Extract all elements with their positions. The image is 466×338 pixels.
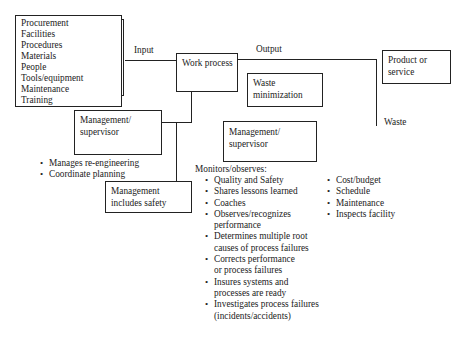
bullet-item: Coaches: [205, 198, 319, 209]
inputs-box: Procurement Facilities Procedures Materi…: [15, 15, 122, 107]
monitors-bullets: Quality and Safety Shares lessons learne…: [205, 175, 319, 322]
bullet-text: Quality and Safety: [214, 175, 319, 186]
waste-minimization-label: Waste minimization: [248, 74, 322, 101]
input-item: Procedures: [21, 40, 121, 51]
bullet-item: Coordinate planning: [40, 169, 139, 180]
bullet-item: Schedule: [327, 186, 395, 197]
bullet-item: Maintenance: [327, 198, 395, 209]
bullet-item: Corrects performanceor process failures: [205, 254, 319, 277]
input-item: Materials: [21, 51, 121, 62]
bullet-item: Investigates process failures(incidents/…: [205, 299, 319, 322]
work-process-down-connector: [191, 92, 192, 123]
mgmt-safety-label: Management includes safety: [106, 182, 191, 209]
product-service-box: Product or service: [382, 50, 451, 84]
input-item: Tools/equipment: [21, 73, 121, 84]
bullet-item: Insures systems andprocesses are ready: [205, 277, 319, 300]
bullet-text: Determines multiple root: [214, 231, 319, 242]
output-label: Output: [256, 44, 282, 55]
monitors-heading: Monitors/observes:: [195, 164, 267, 175]
bullet-item: Inspects facility: [327, 209, 395, 220]
product-service-label: Product or service: [383, 51, 450, 78]
product-line2: service: [388, 67, 450, 79]
mgmt-left-line1: Management/: [80, 115, 161, 127]
waste-minimization-box: Waste minimization: [247, 73, 323, 107]
work-process-box: Work process: [176, 53, 238, 92]
bullet-item: Manages re-engineering: [40, 158, 139, 169]
input-item: Training: [21, 95, 121, 106]
bullet-text-cont: processes are ready: [214, 288, 319, 299]
bullet-text: Corrects performance: [214, 254, 319, 265]
input-item: Procurement: [21, 18, 121, 29]
mgmt-safety-box: Management includes safety: [105, 181, 192, 213]
mgmt-safety-vertical-connector: [176, 122, 177, 182]
bullet-text: Investigates process failures: [214, 299, 319, 310]
inputs-box-edge: [121, 19, 124, 96]
waste-label: Waste: [384, 117, 406, 128]
mgmt-left-label: Management/ supervisor: [75, 111, 161, 138]
waste-min-line2: minimization: [253, 90, 322, 102]
bullet-text-cont: (incidents/accidents): [214, 311, 319, 322]
bullet-text-cont: performance: [214, 220, 319, 231]
bullet-item: Determines multiple rootcauses of proces…: [205, 231, 319, 254]
mgmt-right-label: Management/ supervisor: [224, 122, 316, 150]
mgmt-right-line1: Management/: [229, 127, 316, 139]
mgmt-safety-line2: includes safety: [111, 198, 191, 210]
bullet-text: Observes/recognizes: [214, 209, 319, 220]
mgmt-right-box: Management/ supervisor: [223, 121, 317, 162]
bullet-item: Cost/budget: [327, 175, 395, 186]
input-label: Input: [134, 45, 154, 56]
output-connector-tail: [357, 59, 377, 60]
output-connector: [238, 59, 358, 60]
bullet-item: Quality and Safety: [205, 175, 319, 186]
right-bullets: Cost/budget Schedule Maintenance Inspect…: [327, 175, 395, 220]
mgmt-left-box: Management/ supervisor: [74, 110, 162, 155]
input-item: People: [21, 62, 121, 73]
bullet-item: Shares lessons learned: [205, 186, 319, 197]
mgmt-left-line2: supervisor: [80, 127, 161, 139]
bullet-text-cont: or process failures: [214, 265, 319, 276]
bullet-text: Coaches: [214, 198, 319, 209]
input-connector: [125, 60, 176, 61]
mgmt-left-bullets: Manages re-engineering Coordinate planni…: [40, 158, 139, 181]
bullet-text: Insures systems and: [214, 277, 319, 288]
waste-min-line1: Waste: [253, 78, 322, 90]
work-process-label: Work process: [177, 54, 237, 70]
bullet-text-cont: causes of process failures: [214, 243, 319, 254]
input-item: Maintenance: [21, 84, 121, 95]
bullet-item: Observes/recognizesperformance: [205, 209, 319, 232]
output-vertical-connector: [376, 59, 377, 126]
mgmt-right-line2: supervisor: [229, 139, 316, 151]
input-item: Facilities: [21, 29, 121, 40]
inputs-list: Procurement Facilities Procedures Materi…: [16, 16, 121, 106]
bullet-text: Shares lessons learned: [214, 186, 319, 197]
product-line1: Product or: [388, 55, 450, 67]
mgmt-safety-line1: Management: [111, 186, 191, 198]
